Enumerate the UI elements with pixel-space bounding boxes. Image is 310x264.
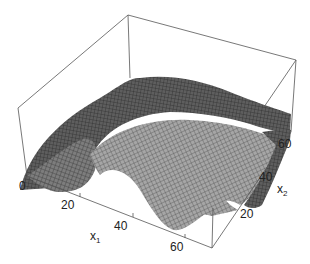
x1-tick-20: 20 (61, 198, 75, 212)
x2-tick-60: 60 (278, 137, 292, 151)
x2-tick-40: 40 (259, 170, 273, 184)
x1-axis-label: x1 (90, 229, 101, 245)
x2-axis-label: x2 (277, 182, 288, 198)
surface-plot: 0 20 40 60 x1 20 40 60 x2 (0, 0, 310, 264)
x1-tick-40: 40 (114, 219, 128, 233)
x2-tick-20: 20 (240, 207, 254, 221)
x1-tick-60: 60 (170, 240, 184, 254)
x1-tick-0: 0 (19, 179, 26, 193)
